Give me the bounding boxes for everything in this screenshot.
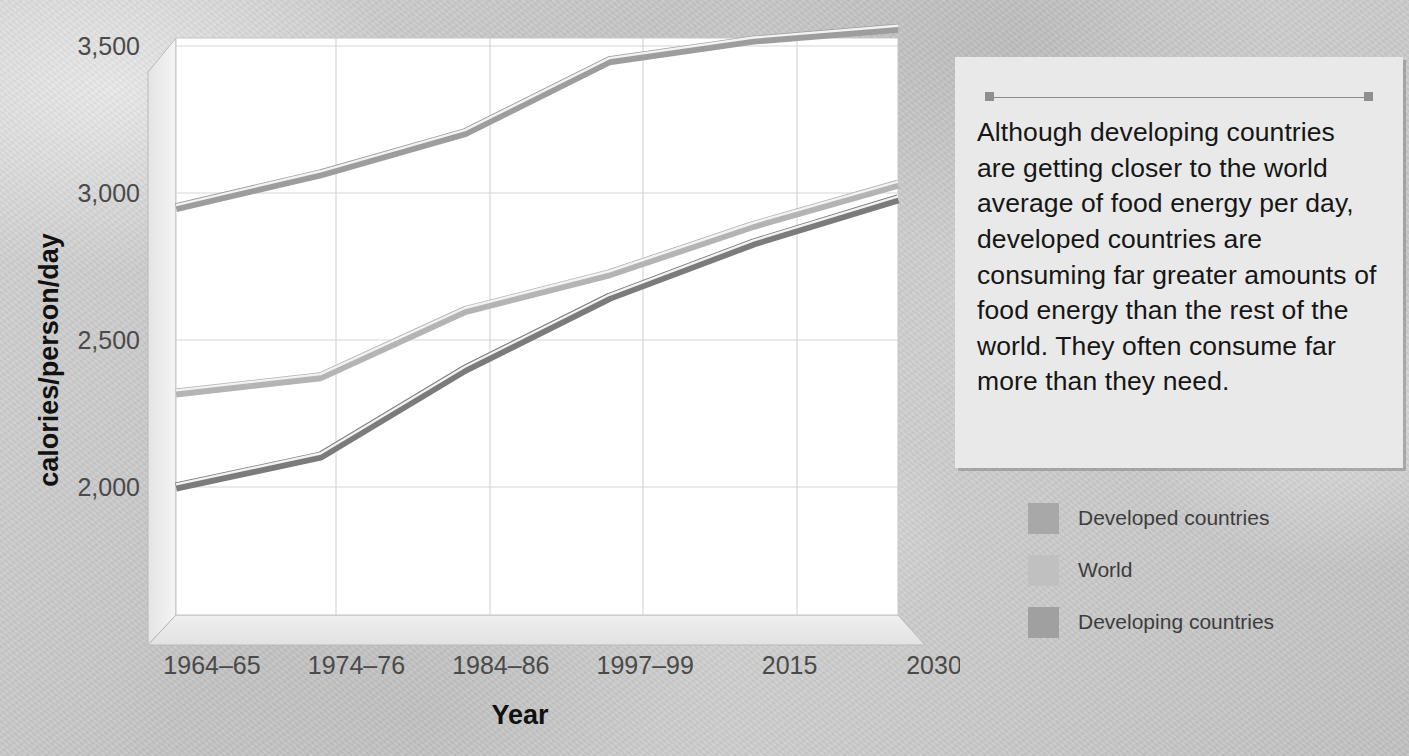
y-tick-label: 2,500 (77, 326, 140, 354)
y-axis-title: calories/person/day (34, 233, 64, 487)
x-tick-label: 2015 (762, 651, 818, 679)
chart-canvas: 2,0002,5003,0003,500 1964–651974–761984–… (0, 0, 960, 756)
caption-box: Although developing countries are gettin… (955, 57, 1403, 468)
legend-label: Developing countries (1078, 610, 1274, 634)
legend-label: Developed countries (1078, 506, 1269, 530)
x-tick-label: 2030 (906, 651, 960, 679)
x-tick-label: 1974–76 (308, 651, 405, 679)
legend-swatch-icon (1028, 607, 1059, 638)
x-axis-tick-labels: 1964–651974–761984–861997–9920152030 (163, 651, 960, 679)
x-tick-label: 1984–86 (452, 651, 549, 679)
chart-legend: Developed countries World Developing cou… (1028, 492, 1388, 648)
legend-item-developing-countries: Developing countries (1028, 596, 1388, 648)
legend-swatch-icon (1028, 503, 1059, 534)
legend-swatch-icon (1028, 555, 1059, 586)
x-axis-title: Year (491, 700, 549, 730)
y-axis-tick-labels: 2,0002,5003,0003,500 (77, 32, 140, 501)
legend-label: World (1078, 558, 1132, 582)
y-tick-label: 2,000 (77, 473, 140, 501)
line-chart: 2,0002,5003,0003,500 1964–651974–761984–… (0, 0, 960, 756)
legend-item-world: World (1028, 544, 1388, 596)
plot-area (176, 38, 898, 615)
divider-line (991, 97, 1367, 98)
caption-divider (983, 89, 1375, 107)
caption-text: Although developing countries are gettin… (977, 115, 1381, 400)
chart-left-wall (148, 38, 176, 645)
y-tick-label: 3,000 (77, 179, 140, 207)
x-tick-label: 1964–65 (163, 651, 260, 679)
y-tick-label: 3,500 (77, 32, 140, 60)
legend-item-developed-countries: Developed countries (1028, 492, 1388, 544)
chart-floor (148, 615, 925, 645)
figure-root: 2,0002,5003,0003,500 1964–651974–761984–… (0, 0, 1409, 756)
x-tick-label: 1997–99 (597, 651, 694, 679)
divider-endpoint-right-icon (1364, 92, 1373, 101)
